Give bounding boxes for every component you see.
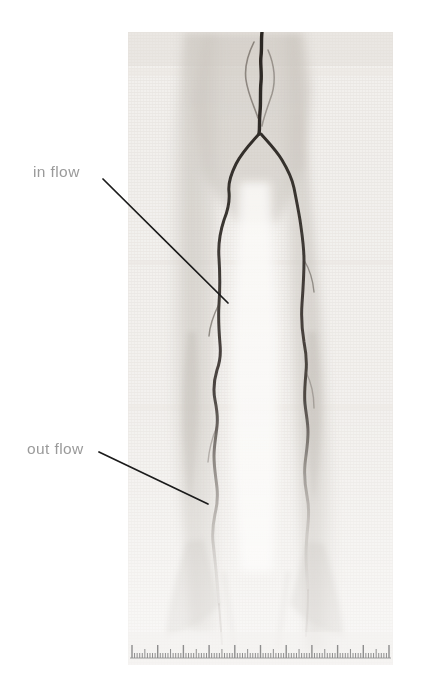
annotation-label-in-flow: in flow [33,163,80,181]
angiogram-film [128,32,393,665]
annotation-label-out-flow: out flow [27,440,84,458]
angiogram-figure: in flow out flow [0,0,423,688]
measurement-ruler [128,632,393,665]
distal-fade [128,32,393,665]
angiogram-image [128,32,393,665]
